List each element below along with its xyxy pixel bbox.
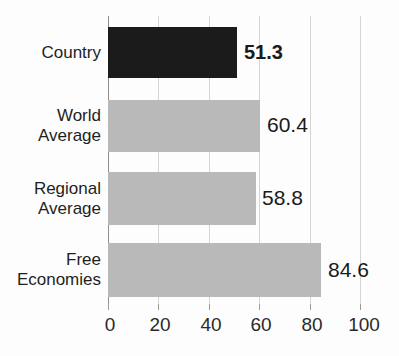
- value-label-free-economies: 84.6: [328, 259, 369, 281]
- tick-label-20: 20: [149, 315, 170, 335]
- plot-area: [108, 16, 360, 304]
- tick-label-80: 80: [301, 315, 322, 335]
- tick-mark-80: [310, 304, 311, 310]
- value-label-regional-average: 58.8: [262, 187, 303, 209]
- category-label-text: Country: [41, 43, 101, 63]
- tick-mark-0: [108, 304, 109, 310]
- chart-title-remnant: [0, 0, 399, 10]
- tick-mark-20: [158, 304, 159, 310]
- value-label-country: 51.3: [244, 41, 283, 63]
- bar-regional-average: [108, 172, 256, 225]
- category-label-text: Regional Average: [34, 179, 101, 219]
- tick-mark-40: [209, 304, 210, 310]
- category-label-free-economies: Free Economies: [0, 243, 101, 297]
- tick-mark-60: [259, 304, 260, 310]
- category-label-text: Free Economies: [17, 250, 101, 290]
- category-label-country: Country: [0, 27, 101, 78]
- tick-label-0: 0: [105, 315, 116, 335]
- tick-label-100: 100: [348, 315, 380, 335]
- bar-country: [108, 27, 237, 78]
- tick-label-40: 40: [200, 315, 221, 335]
- category-label-world-average: World Average: [0, 100, 101, 152]
- category-label-text: World Average: [38, 106, 101, 146]
- bar-world-average: [108, 100, 260, 152]
- value-label-world-average: 60.4: [267, 114, 308, 136]
- bar-chart: Country World Average Regional Average F…: [0, 0, 399, 356]
- tick-mark-100: [360, 304, 361, 310]
- tick-label-60: 60: [250, 315, 271, 335]
- category-label-regional-average: Regional Average: [0, 172, 101, 225]
- bar-free-economies: [108, 243, 321, 297]
